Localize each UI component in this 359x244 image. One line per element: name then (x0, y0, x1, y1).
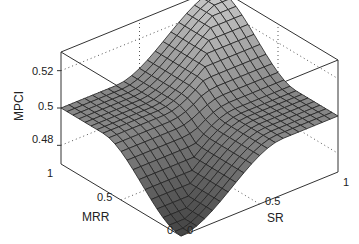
x-axis-label: SR (267, 212, 284, 224)
y-tick-05: 0.5 (97, 192, 112, 203)
surface-plot (0, 0, 359, 244)
z-axis-label: MPCI (13, 91, 25, 121)
z-tick-050: 0.5 (38, 101, 53, 112)
x-tick-1: 1 (343, 177, 349, 188)
y-tick-0: 0 (167, 225, 173, 236)
y-tick-1: 1 (47, 168, 53, 179)
z-tick-048: 0.48 (32, 134, 53, 145)
x-tick-0: 0 (187, 225, 193, 236)
y-axis-label: MRR (82, 211, 109, 223)
z-tick-052: 0.52 (32, 66, 53, 77)
x-tick-05: 0.5 (265, 196, 280, 207)
